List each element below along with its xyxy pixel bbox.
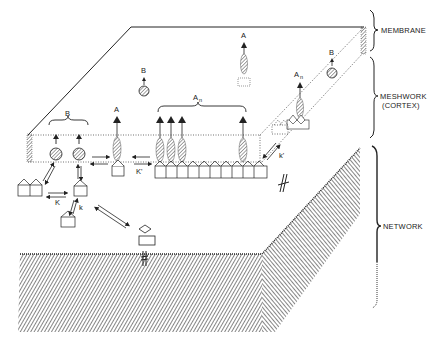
svg-text:n: n	[300, 74, 303, 80]
b-particle-membrane: B	[139, 66, 149, 96]
svg-text:n: n	[199, 97, 202, 103]
b-particle-right: B	[327, 48, 337, 78]
monomer-mid	[74, 180, 87, 196]
svg-text:A: A	[193, 93, 198, 102]
b-group: B	[49, 109, 88, 160]
an-right: A n	[272, 70, 309, 134]
membrane-plane	[28, 27, 364, 135]
label-cortex: (CORTEX)	[382, 101, 420, 110]
a-single: A	[113, 105, 121, 161]
rate-K: K	[55, 198, 60, 207]
svg-text:B: B	[329, 48, 334, 57]
a-membrane: A	[238, 31, 250, 86]
svg-text:A: A	[114, 105, 119, 114]
b-particle	[50, 134, 62, 160]
label-membrane: MEMBRANE	[381, 26, 426, 35]
cytoskeleton-diagram: MEMBRANE MESHWORK (CORTEX) NETWORK B B A	[0, 0, 442, 347]
monomer-free	[139, 225, 155, 245]
b-particle	[73, 134, 85, 160]
label-network: NETWORK	[383, 222, 423, 231]
label-meshwork: MESHWORK	[380, 92, 427, 101]
svg-text:B: B	[65, 109, 70, 118]
rate-k-prime-right: k'	[279, 151, 285, 160]
monomer-single	[112, 160, 124, 176]
layer-labels: MEMBRANE MESHWORK (CORTEX) NETWORK	[370, 10, 427, 308]
monomer-pair	[18, 179, 42, 196]
an-group: A n	[156, 93, 247, 162]
svg-text:A: A	[294, 70, 299, 79]
rate-k-prime: K'	[136, 167, 143, 176]
svg-text:A: A	[241, 31, 246, 40]
rate-k: k	[79, 203, 83, 212]
svg-text:B: B	[141, 66, 146, 75]
filament-row	[155, 161, 267, 178]
